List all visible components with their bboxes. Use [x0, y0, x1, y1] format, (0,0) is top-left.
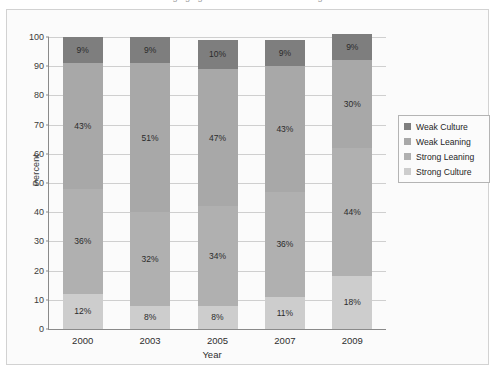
y-axis-tick-mark — [46, 95, 49, 96]
figure-note-strip: Note: ............................. — [0, 366, 495, 375]
plot-area: 010203040506070809010012%36%43%9%20008%3… — [48, 37, 386, 330]
legend-item-label: Strong Leaning — [416, 152, 474, 162]
y-axis-tick-label: 10 — [34, 295, 44, 305]
bar-segment-value: 9% — [279, 49, 291, 58]
bar-segment[interactable]: 44% — [332, 148, 372, 276]
bar-segment[interactable]: 9% — [265, 40, 305, 66]
y-axis-tick-mark — [46, 37, 49, 38]
bar-segment-value: 8% — [144, 313, 156, 322]
bar-segment[interactable]: 9% — [63, 37, 103, 63]
x-axis-tick-label: 2003 — [120, 335, 180, 346]
chart-figure: Percent Year 010203040506070809010012%36… — [6, 9, 489, 365]
figure-title-strip: ...g...g...g...................... .....… — [0, 0, 495, 9]
bar-segment[interactable]: 47% — [198, 69, 238, 206]
bar-segment[interactable]: 36% — [63, 189, 103, 294]
y-axis-tick-label: 50 — [34, 178, 44, 188]
x-axis-tick-label: 2009 — [322, 335, 382, 346]
y-axis-tick-mark — [46, 329, 49, 330]
chart-legend: Weak CultureWeak LeaningStrong LeaningSt… — [398, 115, 490, 183]
y-axis-tick-label: 70 — [34, 120, 44, 130]
bar-segment[interactable]: 43% — [63, 63, 103, 189]
bar-2009[interactable]: 18%44%30%9%2009 — [332, 37, 372, 329]
legend-item[interactable]: Weak Leaning — [404, 136, 485, 147]
legend-item[interactable]: Strong Leaning — [404, 151, 485, 162]
y-axis-tick-mark — [46, 183, 49, 184]
bar-segment[interactable]: 36% — [265, 192, 305, 297]
bar-segment-value: 47% — [209, 134, 226, 143]
legend-item[interactable]: Weak Culture — [404, 121, 485, 132]
bar-segment-value: 12% — [74, 307, 91, 316]
bar-segment-value: 32% — [142, 255, 159, 264]
y-axis-tick-mark — [46, 153, 49, 154]
y-axis-tick-mark — [46, 124, 49, 125]
y-axis-tick-mark — [46, 66, 49, 67]
bar-segment[interactable]: 12% — [63, 294, 103, 329]
bar-2000[interactable]: 12%36%43%9%2000 — [63, 37, 103, 329]
bar-segment-value: 18% — [344, 298, 361, 307]
y-axis-tick-label: 0 — [39, 324, 44, 334]
bar-segment[interactable]: 30% — [332, 60, 372, 148]
legend-item[interactable]: Strong Culture — [404, 166, 485, 177]
bar-segment[interactable]: 34% — [198, 206, 238, 305]
x-axis-tick-label: 2000 — [53, 335, 113, 346]
legend-swatch-icon — [404, 153, 411, 160]
x-axis-tick-label: 2007 — [255, 335, 315, 346]
bar-segment[interactable]: 8% — [198, 306, 238, 329]
y-axis-tick-mark — [46, 241, 49, 242]
bar-segment[interactable]: 10% — [198, 40, 238, 69]
bar-segment-value: 36% — [276, 240, 293, 249]
bar-segment[interactable]: 9% — [130, 37, 170, 63]
bar-segment-value: 44% — [344, 208, 361, 217]
y-axis-tick-mark — [46, 212, 49, 213]
bar-segment-value: 10% — [209, 50, 226, 59]
bar-segment[interactable]: 43% — [265, 66, 305, 192]
bar-segment-value: 11% — [277, 309, 293, 318]
bar-segment-value: 34% — [209, 252, 226, 261]
bar-segment-value: 43% — [276, 125, 293, 134]
bar-segment[interactable]: 11% — [265, 297, 305, 329]
legend-swatch-icon — [404, 168, 411, 175]
y-axis-tick-mark — [46, 270, 49, 271]
bar-2005[interactable]: 8%34%47%10%2005 — [198, 37, 238, 329]
y-axis-tick-label: 30 — [34, 236, 44, 246]
bar-segment-value: 9% — [144, 46, 156, 55]
legend-item-label: Weak Leaning — [416, 137, 471, 147]
bar-segment[interactable]: 32% — [130, 212, 170, 305]
legend-swatch-icon — [404, 138, 411, 145]
bar-segment-value: 9% — [346, 43, 358, 52]
y-axis-tick-label: 20 — [34, 266, 44, 276]
y-axis-tick-label: 90 — [34, 61, 44, 71]
figure-title: ...g...g...g...................... .....… — [0, 0, 495, 2]
y-axis-tick-label: 40 — [34, 207, 44, 217]
legend-item-label: Strong Culture — [416, 167, 471, 177]
figure-note: Note: ............................. — [4, 366, 84, 368]
y-axis-tick-mark — [46, 299, 49, 300]
bar-segment-value: 51% — [142, 134, 159, 143]
bar-segment[interactable]: 9% — [332, 34, 372, 60]
legend-item-label: Weak Culture — [416, 122, 468, 132]
x-axis-tick-label: 2005 — [188, 335, 248, 346]
bar-segment[interactable]: 51% — [130, 63, 170, 212]
bar-segment-value: 8% — [211, 313, 223, 322]
y-axis-tick-label: 60 — [34, 149, 44, 159]
legend-swatch-icon — [404, 123, 411, 130]
x-axis-title: Year — [37, 349, 387, 360]
bar-segment-value: 30% — [344, 100, 361, 109]
bar-segment-value: 9% — [77, 46, 89, 55]
bar-segment[interactable]: 18% — [332, 276, 372, 329]
y-axis-tick-label: 80 — [34, 90, 44, 100]
y-axis-title: Percent — [31, 130, 41, 210]
bar-2003[interactable]: 8%32%51%9%2003 — [130, 37, 170, 329]
bar-segment[interactable]: 8% — [130, 306, 170, 329]
bar-segment-value: 36% — [74, 237, 91, 246]
y-axis-tick-label: 100 — [29, 32, 44, 42]
bar-segment-value: 43% — [74, 122, 91, 131]
bar-2007[interactable]: 11%36%43%9%2007 — [265, 37, 305, 329]
